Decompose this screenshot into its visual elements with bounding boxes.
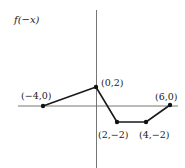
chart-canvas: f(−x) (−4,0) (0,2) (2,−2) (4,−2) (6,0) (0, 0, 185, 168)
chart-title: f(−x) (13, 14, 40, 25)
point-4-neg2 (144, 120, 148, 124)
label-point-0-2: (0,2) (101, 77, 124, 88)
point-neg4-0 (41, 104, 45, 108)
point-6-0 (168, 103, 172, 107)
function-line (43, 87, 170, 122)
point-2-neg2 (115, 120, 119, 124)
point-0-2 (94, 85, 98, 89)
label-point-4-neg2: (4,−2) (139, 129, 169, 140)
label-point-neg4-0: (−4,0) (21, 90, 51, 101)
label-point-6-0: (6,0) (155, 91, 178, 102)
label-point-2-neg2: (2,−2) (98, 129, 128, 140)
